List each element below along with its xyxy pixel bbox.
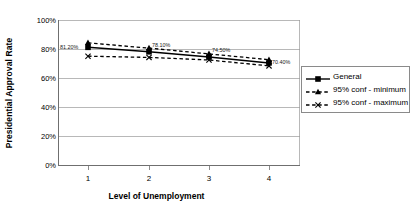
marker-square: [85, 45, 91, 51]
y-axis-tick-label: 20%: [18, 132, 56, 141]
x-axis-tick-label: 2: [147, 174, 151, 183]
x-axis-tick-label: 3: [207, 174, 211, 183]
y-axis-tick-label: 60%: [18, 74, 56, 83]
legend-item-conf-maximum: 95% conf - maximum: [305, 96, 405, 109]
x-axis-tick-label: 4: [267, 174, 271, 183]
data-label-general-1: 81.20%: [60, 44, 78, 50]
legend-item-conf-minimum: 95% conf - minimum: [305, 83, 405, 96]
marker-triangle: [85, 40, 91, 46]
y-axis-tick-label: 0%: [18, 161, 56, 170]
legend-marker-x-icon: [305, 97, 331, 109]
series-line-general: [88, 47, 269, 63]
legend-label-conf-maximum: 95% conf - maximum: [331, 98, 408, 107]
legend: General 95% conf - minimum: [301, 66, 410, 113]
data-label-general-3: 74.50%: [212, 47, 230, 53]
data-label-general-2: 78.10%: [152, 42, 170, 48]
legend-marker-square-icon: [305, 71, 331, 83]
chart-container: Presidential Approval Rate 100% 80% 60% …: [0, 0, 413, 220]
data-label-general-4: 70.40%: [272, 59, 290, 65]
legend-label-conf-minimum: 95% conf - minimum: [331, 85, 406, 94]
plot-area: [58, 14, 300, 172]
legend-item-general: General: [305, 70, 405, 83]
gridlines: [58, 20, 300, 136]
x-axis-tick-label: 1: [86, 174, 90, 183]
legend-marker-triangle-icon: [305, 84, 331, 96]
x-axis-ticks: [88, 165, 269, 170]
marker-square: [206, 54, 212, 60]
x-axis-title: Level of Unemployment: [0, 191, 363, 201]
marker-square: [146, 49, 152, 55]
y-axis-tick-labels: 100% 80% 60% 40% 20% 0%: [16, 0, 56, 220]
y-axis-tick-label: 80%: [18, 45, 56, 54]
marker-square: [266, 60, 272, 66]
y-axis-tick-label: 100%: [18, 16, 56, 25]
y-axis-tick-label: 40%: [18, 103, 56, 112]
series-markers-conf-minimum: [85, 40, 272, 62]
y-axis-title-text: Presidential Approval Rate: [4, 37, 14, 147]
legend-label-general: General: [331, 72, 361, 81]
